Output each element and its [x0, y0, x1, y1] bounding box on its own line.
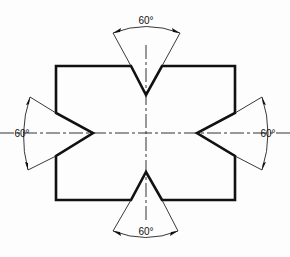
left-angle-label: 60° — [14, 128, 29, 139]
diagram-canvas: 60° 60° 60° 60° — [0, 0, 290, 257]
bottom-angle-label: 60° — [138, 226, 153, 237]
notched-plate-drawing: 60° 60° 60° 60° — [0, 0, 290, 257]
right-angle-label: 60° — [260, 128, 275, 139]
top-angle-label: 60° — [138, 15, 153, 26]
